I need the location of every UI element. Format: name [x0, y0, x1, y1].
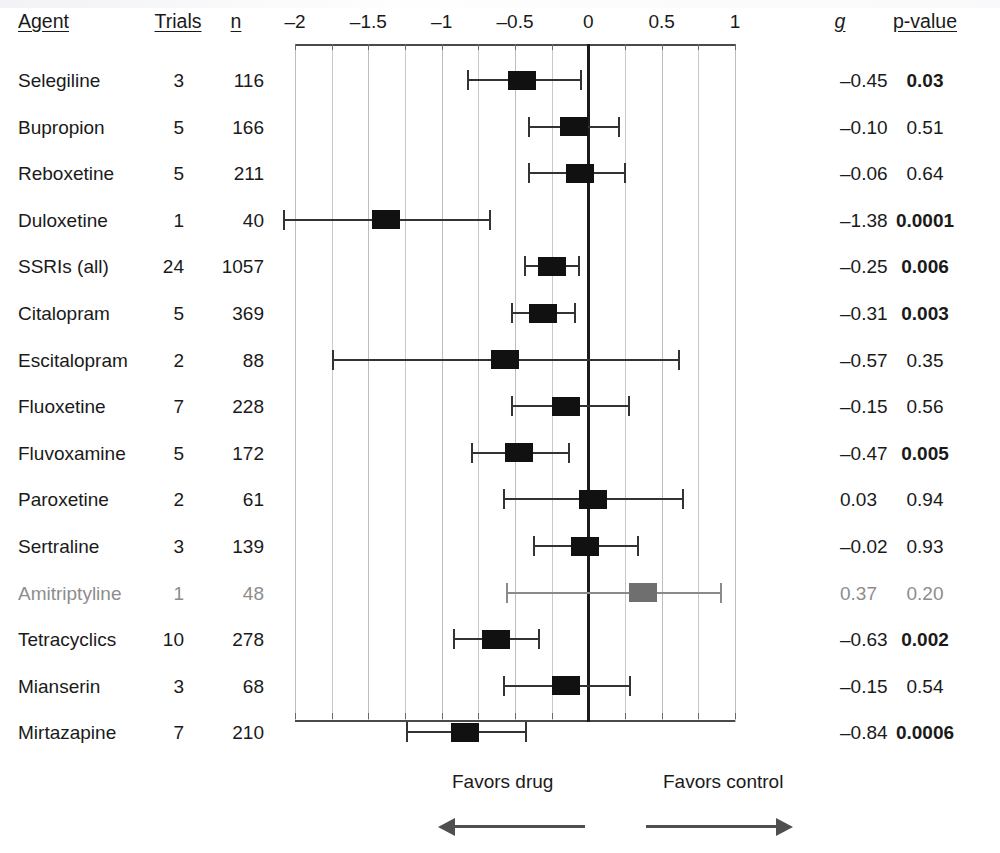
gridline — [368, 44, 369, 722]
axis-tick — [295, 44, 296, 50]
column-header-trials: Trials — [155, 12, 202, 32]
p-value: 0.35 — [907, 351, 944, 370]
ci-cap-lower — [528, 163, 530, 183]
ci-cap-upper — [525, 722, 527, 742]
p-value: 0.54 — [907, 677, 944, 696]
x-axis-line-bottom — [295, 720, 735, 722]
ci-cap-upper — [629, 676, 631, 696]
axis-tick — [515, 713, 516, 719]
axis-tick — [368, 713, 369, 719]
sample-size: 369 — [232, 304, 264, 323]
sample-size: 166 — [232, 118, 264, 137]
effect-size-marker — [482, 630, 510, 649]
gridline — [625, 44, 626, 722]
ci-cap-upper — [628, 396, 630, 416]
gridline — [442, 44, 443, 722]
axis-tick — [735, 713, 736, 719]
effect-size-value: –0.47 — [840, 444, 888, 463]
effect-size-marker — [629, 583, 657, 602]
axis-tick — [735, 44, 736, 50]
sample-size: 172 — [232, 444, 264, 463]
effect-size-value: –0.57 — [840, 351, 888, 370]
p-value: 0.56 — [907, 397, 944, 416]
agent-name: Sertraline — [18, 537, 99, 556]
sample-size: 61 — [243, 490, 264, 509]
axis-tick — [332, 44, 333, 50]
agent-name: SSRIs (all) — [18, 257, 109, 276]
axis-tick — [368, 44, 369, 50]
gridline — [295, 44, 296, 722]
agent-name: Mirtazapine — [18, 723, 116, 742]
effect-size-value: 0.03 — [840, 490, 877, 509]
column-header-g: g — [835, 12, 846, 32]
effect-size-value: –1.38 — [840, 211, 888, 230]
axis-tick — [662, 44, 663, 50]
agent-name: Mianserin — [18, 677, 100, 696]
sample-size: 211 — [234, 164, 264, 183]
sample-size: 48 — [243, 584, 264, 603]
sample-size: 278 — [232, 630, 264, 649]
p-value: 0.0006 — [896, 723, 954, 742]
axis-tick — [552, 713, 553, 719]
trials-count: 3 — [173, 71, 184, 90]
axis-tick — [698, 44, 699, 50]
trials-count: 7 — [173, 723, 184, 742]
gridline — [332, 44, 333, 722]
trials-count: 5 — [173, 444, 184, 463]
axis-tick-label: 0.5 — [648, 12, 674, 31]
effect-size-value: –0.45 — [840, 71, 888, 90]
confidence-interval-line — [506, 592, 720, 594]
effect-size-value: –0.15 — [840, 397, 888, 416]
axis-tick-label: 0 — [583, 12, 594, 31]
trials-count: 10 — [163, 630, 184, 649]
trials-count: 5 — [173, 304, 184, 323]
ci-cap-lower — [453, 629, 455, 649]
p-value: 0.002 — [901, 630, 949, 649]
arrow-left-head-icon — [438, 818, 455, 836]
effect-size-value: –0.06 — [840, 164, 888, 183]
effect-size-value: –0.15 — [840, 677, 888, 696]
axis-tick — [478, 44, 479, 50]
p-value: 0.94 — [907, 490, 944, 509]
plot-area — [295, 44, 735, 722]
effect-size-marker — [451, 723, 479, 742]
trials-count: 2 — [173, 351, 184, 370]
agent-name: Selegiline — [18, 71, 100, 90]
axis-tick — [295, 713, 296, 719]
gridline — [735, 44, 736, 722]
agent-name: Fluvoxamine — [18, 444, 126, 463]
axis-tick — [625, 713, 626, 719]
effect-size-value: –0.63 — [840, 630, 888, 649]
ci-cap-lower — [524, 256, 526, 276]
ci-cap-upper — [538, 629, 540, 649]
axis-tick — [332, 713, 333, 719]
effect-size-marker — [552, 676, 580, 695]
gridline — [662, 44, 663, 722]
p-value: 0.93 — [907, 537, 944, 556]
p-value: 0.005 — [901, 444, 949, 463]
effect-size-marker — [579, 490, 607, 509]
ci-cap-lower — [506, 583, 508, 603]
axis-tick — [698, 713, 699, 719]
trials-count: 5 — [173, 164, 184, 183]
gridline — [552, 44, 553, 722]
sample-size: 228 — [232, 397, 264, 416]
ci-cap-upper — [578, 256, 580, 276]
ci-cap-lower — [511, 303, 513, 323]
axis-tick — [478, 713, 479, 719]
axis-tick — [662, 713, 663, 719]
column-header-pvalue: p-value — [893, 12, 957, 32]
ci-cap-upper — [678, 350, 680, 370]
ci-cap-lower — [332, 350, 334, 370]
scan-artifact-strip — [0, 0, 1000, 8]
gridline — [515, 44, 516, 722]
p-value: 0.51 — [907, 118, 944, 137]
ci-cap-upper — [637, 536, 639, 556]
ci-cap-upper — [574, 303, 576, 323]
agent-name: Amitriptyline — [18, 584, 121, 603]
ci-cap-upper — [618, 117, 620, 137]
effect-size-marker — [566, 164, 594, 183]
p-value: 0.0001 — [896, 211, 954, 230]
trials-count: 7 — [173, 397, 184, 416]
axis-tick — [515, 44, 516, 50]
